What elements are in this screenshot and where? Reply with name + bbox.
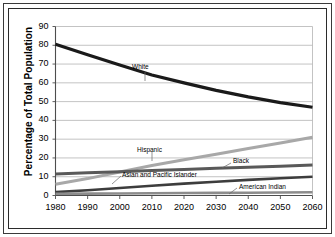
series-label-black: Black bbox=[233, 157, 249, 164]
chart-figure: Percentage of Total Population 010203040… bbox=[0, 0, 335, 237]
series-label-white: White bbox=[132, 63, 149, 70]
series-line bbox=[56, 192, 313, 194]
leader-line bbox=[112, 176, 121, 184]
chart-canvas bbox=[0, 0, 335, 237]
series-label-asian-and-pacific-islander: Asian and Pacific Islander bbox=[122, 171, 197, 178]
plot-area-wrapper: Percentage of Total Population 010203040… bbox=[0, 0, 335, 237]
series-label-american-indian: American Indian bbox=[239, 183, 286, 190]
series-label-hispanic: Hispanic bbox=[137, 146, 162, 153]
series-line bbox=[56, 44, 313, 107]
